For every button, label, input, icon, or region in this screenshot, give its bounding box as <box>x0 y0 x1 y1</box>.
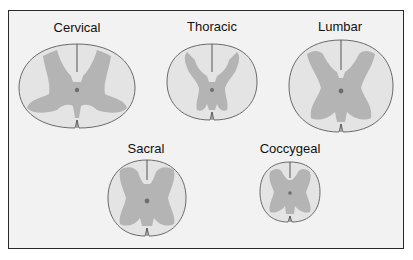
label-lumbar: Lumbar <box>318 19 362 34</box>
label-coccygeal: Coccygeal <box>260 141 321 156</box>
label-thoracic: Thoracic <box>187 19 237 34</box>
coccygeal-cross-section <box>258 160 322 224</box>
label-cervical: Cervical <box>54 20 101 35</box>
sacral-cross-section <box>106 158 188 238</box>
label-sacral: Sacral <box>128 141 165 156</box>
lumbar-cross-section <box>287 38 395 134</box>
cervical-cross-section <box>17 42 137 130</box>
thoracic-cross-section <box>165 42 259 122</box>
